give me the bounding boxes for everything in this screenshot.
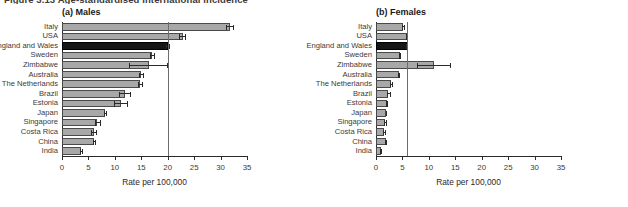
x-axis-tick-label: 10 bbox=[425, 163, 434, 172]
y-axis-label-sweden: Sweden bbox=[31, 51, 58, 59]
x-axis-tick bbox=[561, 156, 562, 160]
error-bar bbox=[417, 65, 451, 66]
y-axis-label-the-netherlands: The Netherlands bbox=[2, 80, 58, 88]
x-axis-tick-label: 20 bbox=[477, 163, 486, 172]
x-axis-tick bbox=[508, 156, 509, 160]
x-axis-tick bbox=[168, 156, 169, 160]
error-bar bbox=[91, 132, 97, 133]
y-axis-label-singapore: Singapore bbox=[23, 118, 58, 126]
y-axis-label-sweden: Sweden bbox=[345, 51, 372, 59]
panel-title-females: (b) Females bbox=[376, 7, 426, 17]
error-bar bbox=[399, 55, 402, 56]
x-axis-tick bbox=[62, 156, 63, 160]
x-axis-tick bbox=[194, 156, 195, 160]
y-axis-label-the-netherlands: The Netherlands bbox=[316, 80, 372, 88]
y-axis-label-england-and-wales: England and Wales bbox=[306, 42, 372, 50]
bar-row: China bbox=[376, 137, 561, 147]
bar-females-italy bbox=[376, 23, 403, 31]
bar-females-sweden bbox=[376, 52, 400, 60]
panel-title-males: (a) Males bbox=[62, 7, 101, 17]
error-bar bbox=[150, 55, 155, 56]
bar-row: The Netherlands bbox=[376, 79, 561, 89]
x-axis-tick bbox=[115, 156, 116, 160]
bar-row: USA bbox=[376, 32, 561, 42]
x-axis-tick bbox=[482, 156, 483, 160]
error-bar bbox=[139, 74, 144, 75]
x-axis-tick-label: 5 bbox=[86, 163, 90, 172]
y-axis-label-usa: USA bbox=[42, 32, 58, 40]
x-axis-tick bbox=[429, 156, 430, 160]
bar-males-england-and-wales bbox=[62, 42, 168, 50]
bar-males-sweden bbox=[62, 52, 152, 60]
bar-males-singapore bbox=[62, 119, 97, 127]
bar-rows-females: ItalyUSAEngland and WalesSwedenZimbabweA… bbox=[376, 22, 561, 156]
bar-row: China bbox=[62, 137, 247, 147]
bar-row: Italy bbox=[376, 22, 561, 32]
y-axis-label-zimbabwe: Zimbabwe bbox=[23, 61, 58, 69]
x-axis-tick-label: 5 bbox=[400, 163, 404, 172]
y-axis-label-india: India bbox=[356, 147, 372, 155]
figure-root: Figure 3.13 Age-standardised internation… bbox=[0, 0, 628, 207]
x-axis-tick-label: 30 bbox=[216, 163, 225, 172]
x-axis-tick-label: 0 bbox=[60, 163, 64, 172]
bar-row: Costa Rica bbox=[62, 127, 247, 137]
x-axis-title-males: Rate per 100,000 bbox=[122, 177, 187, 187]
bar-row: Japan bbox=[376, 108, 561, 118]
bar-females-england-and-wales bbox=[376, 42, 407, 50]
y-axis-label-usa: USA bbox=[356, 32, 372, 40]
bar-row: USA bbox=[62, 32, 247, 42]
panel-males: (a) Males ItalyUSAEngland and WalesSwede… bbox=[0, 0, 314, 207]
bar-males-usa bbox=[62, 33, 183, 41]
bar-row: England and Wales bbox=[376, 41, 561, 51]
y-axis-label-costa-rica: Costa Rica bbox=[335, 128, 372, 136]
error-bar bbox=[386, 113, 388, 114]
reference-line-females bbox=[407, 22, 408, 156]
x-axis-tick-label: 0 bbox=[374, 163, 378, 172]
bar-females-australia bbox=[376, 71, 399, 79]
bar-row: Singapore bbox=[62, 118, 247, 128]
y-axis-label-costa-rica: Costa Rica bbox=[21, 128, 58, 136]
y-axis-label-india: India bbox=[42, 147, 58, 155]
x-axis-tick-label: 25 bbox=[504, 163, 513, 172]
error-bar bbox=[385, 141, 387, 142]
error-bar bbox=[114, 103, 128, 104]
error-bar bbox=[119, 93, 131, 94]
y-axis-label-italy: Italy bbox=[358, 23, 372, 31]
bar-row: Zimbabwe bbox=[376, 60, 561, 70]
y-axis-label-singapore: Singapore bbox=[337, 118, 372, 126]
x-axis-tick-label: 10 bbox=[111, 163, 120, 172]
bar-males-brazil bbox=[62, 90, 125, 98]
error-bar bbox=[129, 65, 168, 66]
panel-females: (b) Females ItalyUSAEngland and WalesSwe… bbox=[314, 0, 628, 207]
bar-row: Zimbabwe bbox=[62, 60, 247, 70]
y-axis-label-china: China bbox=[38, 138, 58, 146]
bar-row: Costa Rica bbox=[376, 127, 561, 137]
bar-males-estonia bbox=[62, 100, 121, 108]
bar-rows-males: ItalyUSAEngland and WalesSwedenZimbabweA… bbox=[62, 22, 247, 156]
bar-row: Singapore bbox=[376, 118, 561, 128]
error-bar bbox=[390, 84, 393, 85]
x-axis-tick-label: 25 bbox=[190, 163, 199, 172]
x-axis-tick-label: 15 bbox=[451, 163, 460, 172]
bar-row: India bbox=[62, 146, 247, 156]
error-bar bbox=[383, 132, 386, 133]
error-bar bbox=[387, 93, 391, 94]
bar-row: Sweden bbox=[376, 51, 561, 61]
x-axis-tick-label: 15 bbox=[137, 163, 146, 172]
x-axis-tick bbox=[455, 156, 456, 160]
x-axis-tick-label: 35 bbox=[243, 163, 252, 172]
bar-males-costa-rica bbox=[62, 128, 94, 136]
bar-males-india bbox=[62, 147, 81, 155]
error-bar bbox=[384, 122, 387, 123]
error-bar bbox=[386, 103, 389, 104]
x-axis-tick bbox=[535, 156, 536, 160]
plot-area-males: ItalyUSAEngland and WalesSwedenZimbabweA… bbox=[62, 22, 247, 156]
y-axis-label-estonia: Estonia bbox=[347, 99, 372, 107]
x-axis-tick bbox=[221, 156, 222, 160]
bar-males-the-netherlands bbox=[62, 80, 140, 88]
x-axis-tick bbox=[247, 156, 248, 160]
y-axis-label-england-and-wales: England and Wales bbox=[0, 42, 58, 50]
x-axis-tick bbox=[141, 156, 142, 160]
error-bar bbox=[179, 36, 185, 37]
bar-row: India bbox=[376, 146, 561, 156]
